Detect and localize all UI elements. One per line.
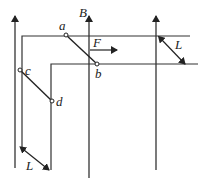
end-c [18,68,22,72]
rails [22,36,198,170]
label-L-bottom: L [25,158,33,173]
diagram-canvas: B a b c d F L L [0,0,206,183]
rods [20,35,97,101]
inner-rail [51,64,198,170]
magnetic-field-lines [15,16,156,178]
end-d [50,99,54,103]
label-b: b [95,66,102,81]
label-a: a [59,18,66,33]
label-c: c [25,63,31,78]
diagram: B a b c d F L L [0,0,206,183]
outer-rail [22,36,190,148]
label-B: B [79,5,87,20]
end-a [64,33,68,37]
label-L-right: L [174,37,182,52]
label-F: F [92,35,102,50]
label-d: d [56,94,63,109]
